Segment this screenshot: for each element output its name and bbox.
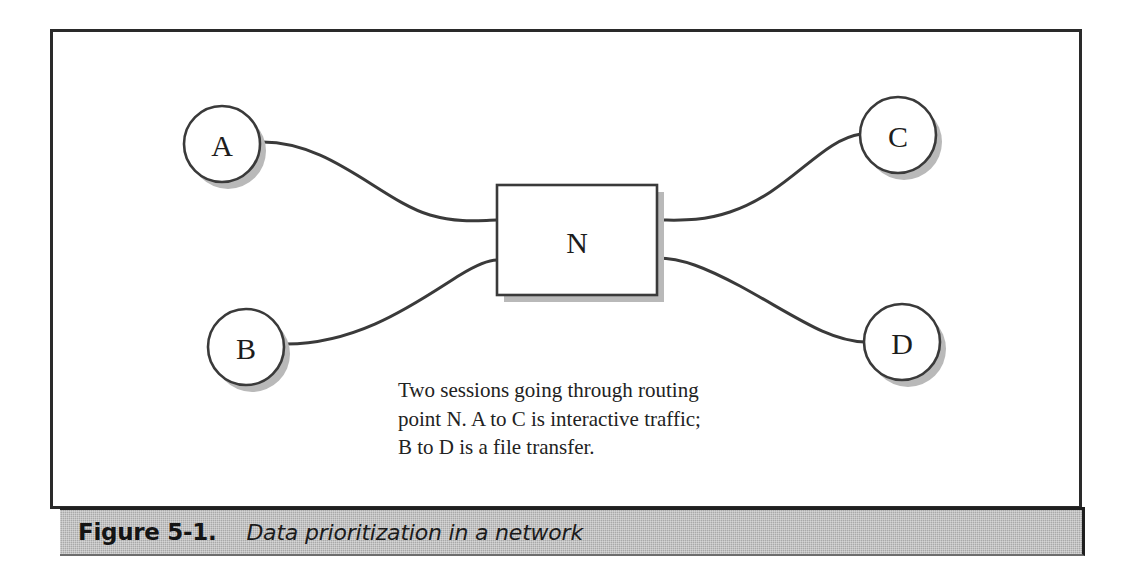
diagram-note-line-2: point N. A to C is interactive traffic; — [398, 405, 818, 434]
figure-caption-title: Data prioritization in a network — [246, 520, 583, 545]
diagram-note: Two sessions going through routing point… — [398, 376, 818, 462]
figure-container: N A B C D Two sessions going through rou… — [0, 0, 1132, 586]
figure-caption-label: Figure 5-1. — [78, 519, 216, 545]
figure-caption-band: Figure 5-1. Data prioritization in a net… — [60, 507, 1085, 556]
diagram-note-line-3: B to D is a file transfer. — [398, 433, 818, 462]
diagram-note-line-1: Two sessions going through routing — [398, 376, 818, 405]
